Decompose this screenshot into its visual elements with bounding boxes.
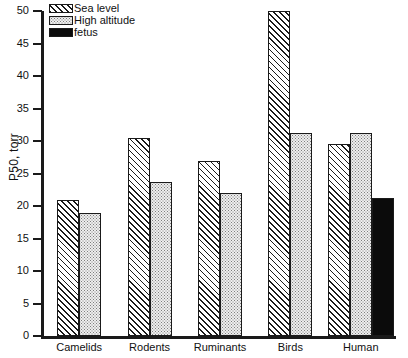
legend-swatch-fetus <box>49 28 73 37</box>
legend-label-high-altitude: High altitude <box>74 15 135 26</box>
bar-ruminants-high-altitude <box>220 193 242 336</box>
y-tick-label-35: 35 <box>3 103 29 114</box>
y-tick-label-45: 45 <box>3 38 29 49</box>
y-tick-label-30: 30 <box>3 135 29 146</box>
bar-human-sea-level <box>328 144 350 336</box>
bar-rodents-high-altitude <box>150 182 172 336</box>
bar-birds-high-altitude <box>290 133 312 336</box>
plot-area <box>44 11 396 336</box>
bar-birds-sea-level <box>268 11 290 336</box>
y-tick-label-40: 40 <box>3 70 29 81</box>
y-tick-40 <box>33 75 42 77</box>
y-tick-label-0: 0 <box>3 330 29 341</box>
x-axis-line <box>41 336 396 339</box>
y-tick-50 <box>33 10 42 12</box>
x-axis-label-rodents: Rodents <box>114 341 184 353</box>
legend-label-sea-level: Sea level <box>74 3 119 14</box>
bar-rodents-sea-level <box>128 138 150 336</box>
y-tick-25 <box>33 173 42 175</box>
x-axis-label-birds: Birds <box>255 341 325 353</box>
y-tick-15 <box>33 238 42 240</box>
legend-swatch-high-altitude <box>49 16 73 25</box>
y-tick-label-50: 50 <box>3 5 29 16</box>
y-axis-title: P50, torr <box>7 117 21 197</box>
bar-camelids-high-altitude <box>79 213 101 337</box>
y-tick-0 <box>33 335 42 337</box>
bar-ruminants-sea-level <box>198 161 220 337</box>
y-tick-label-15: 15 <box>3 233 29 244</box>
y-tick-label-10: 10 <box>3 265 29 276</box>
y-tick-20 <box>33 205 42 207</box>
y-tick-label-5: 5 <box>3 298 29 309</box>
chart-legend: Sea levelHigh altitudefetus <box>49 3 135 39</box>
y-tick-45 <box>33 43 42 45</box>
legend-label-fetus: fetus <box>74 27 98 38</box>
bar-chart: P50, torr 05101520253035404550 CamelidsR… <box>0 0 408 358</box>
y-tick-5 <box>33 303 42 305</box>
y-tick-30 <box>33 140 42 142</box>
legend-item-sea-level: Sea level <box>49 3 135 14</box>
y-tick-label-25: 25 <box>3 168 29 179</box>
legend-item-fetus: fetus <box>49 27 135 38</box>
bar-camelids-sea-level <box>57 200 79 337</box>
x-axis-label-human: Human <box>326 341 396 353</box>
x-axis-label-camelids: Camelids <box>44 341 114 353</box>
bar-human-fetus <box>372 198 394 336</box>
y-tick-35 <box>33 108 42 110</box>
legend-item-high-altitude: High altitude <box>49 15 135 26</box>
y-tick-10 <box>33 270 42 272</box>
bar-human-high-altitude <box>350 133 372 336</box>
x-axis-label-ruminants: Ruminants <box>185 341 255 353</box>
y-tick-label-20: 20 <box>3 200 29 211</box>
legend-swatch-sea-level <box>49 4 73 13</box>
